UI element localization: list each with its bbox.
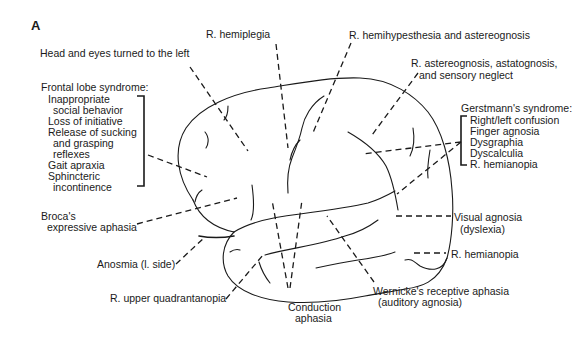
sylvian-fissure bbox=[234, 191, 395, 232]
brain-outline bbox=[178, 78, 453, 269]
leader-anosmia bbox=[176, 237, 205, 264]
frontal-bracket bbox=[137, 96, 144, 186]
label-broca-line2: expressive aphasia bbox=[47, 221, 137, 233]
leader-conduction-1 bbox=[272, 200, 288, 288]
leader-conduction-2 bbox=[290, 200, 302, 288]
label-visual-agnosia-line1: Visual agnosia bbox=[454, 211, 522, 223]
label-r-astereognosis-line2: and sensory neglect bbox=[419, 69, 513, 81]
panel-letter: A bbox=[31, 18, 40, 33]
label-r-hemihypesthesia: R. hemihypesthesia and astereognosis bbox=[349, 29, 530, 41]
leader-r-astereognosis bbox=[372, 73, 418, 135]
label-r-hemiplegia: R. hemiplegia bbox=[206, 28, 270, 40]
label-wernicke-line2: (auditory agnosia) bbox=[378, 296, 462, 308]
leader-wernicke bbox=[327, 216, 374, 282]
label-anosmia: Anosmia (l. side) bbox=[97, 258, 175, 270]
leader-head-eyes bbox=[190, 67, 248, 151]
frontal-lower-outline bbox=[193, 200, 234, 232]
frontal-item: incontinence bbox=[53, 181, 112, 193]
label-conduction-line2: aphasia bbox=[295, 312, 332, 324]
central-sulcus bbox=[288, 96, 324, 193]
label-r-astereognosis-line1: R. astereognosis, astatognosis, bbox=[411, 57, 558, 69]
leader-r-upper-quad bbox=[226, 255, 263, 299]
gerstmann-title: Gerstmann's syndrome: bbox=[461, 102, 572, 114]
leader-r-hemiplegia bbox=[276, 44, 288, 148]
label-r-upper-quadrantanopia: R. upper quadrantanopia bbox=[110, 292, 226, 304]
leader-r-hemihypesthesia bbox=[312, 43, 351, 135]
label-visual-agnosia-line2: (dyslexia) bbox=[460, 223, 505, 235]
frontal-title: Frontal lobe syndrome: bbox=[41, 81, 148, 93]
leader-broca bbox=[137, 198, 237, 224]
brain-lesion-diagram: A Head and eyes turned to the left R. he… bbox=[0, 0, 578, 340]
label-head-eyes: Head and eyes turned to the left bbox=[40, 47, 189, 59]
gerstmann-bracket bbox=[461, 116, 467, 165]
label-r-hemianopia: R. hemianopia bbox=[451, 248, 519, 260]
leader-frontal bbox=[148, 155, 207, 177]
gerstmann-item: R. hemianopia bbox=[470, 158, 538, 170]
